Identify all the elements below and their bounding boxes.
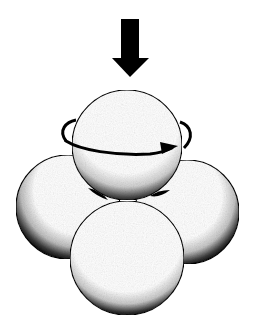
force-arrow-head — [112, 58, 149, 77]
down-arrow-icon — [112, 19, 149, 77]
force-arrow-shaft — [121, 19, 139, 60]
tetrahedral-sphere-diagram: Four spheres in tetrahedral close packin… — [0, 0, 254, 320]
sphere-front — [70, 201, 184, 315]
diagram-canvas — [0, 0, 254, 320]
